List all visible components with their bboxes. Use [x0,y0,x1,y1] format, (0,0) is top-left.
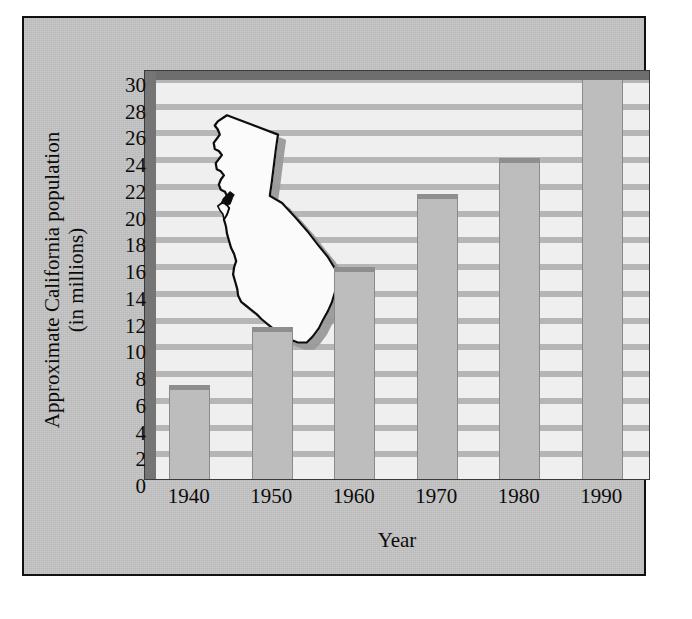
grid-band [156,425,649,431]
bar-1950 [252,327,293,479]
y-tick-label: 18 [125,235,146,256]
grid-band [156,451,649,457]
y-tick-label: 30 [125,75,146,96]
plot-bevel-top [145,71,649,80]
y-tick-label: 20 [125,208,146,229]
y-tick-label: 26 [125,128,146,149]
x-axis-tick-labels: 194019501960197019801990 [155,486,650,520]
y-tick-label: 16 [125,262,146,283]
bar-face [334,272,375,479]
chart-card: Approximate California population (in mi… [22,16,646,576]
y-tick-label: 2 [136,449,147,470]
grid-band [156,237,649,243]
y-axis-title-line2: (in millions) [65,132,89,428]
x-tick-label: 1940 [168,486,210,507]
plot-area [156,80,649,479]
y-axis-title-line1: Approximate California population [41,132,65,428]
x-tick-label: 1990 [580,486,622,507]
grid-band [156,264,649,270]
y-tick-label: 0 [136,476,147,497]
x-tick-label: 1970 [415,486,457,507]
x-tick-label: 1950 [250,486,292,507]
y-tick-label: 28 [125,101,146,122]
y-axis-title: Approximate California population (in mi… [34,60,96,500]
grid-band [156,157,649,163]
grid-band [156,104,649,110]
bar-1970 [417,194,458,479]
grid-band [156,211,649,217]
bar-face [499,163,540,479]
y-axis-tick-labels: 024681012141618202224262830 [106,76,146,476]
grid-band [156,80,649,83]
grid-band [156,318,649,324]
x-tick-label: 1980 [498,486,540,507]
bar-1980 [499,158,540,479]
y-tick-label: 12 [125,315,146,336]
bar-1940 [169,385,210,479]
y-tick-label: 4 [136,422,147,443]
y-tick-label: 6 [136,395,147,416]
grid-band [156,291,649,297]
y-tick-label: 22 [125,181,146,202]
grid-band [156,130,649,136]
y-tick-label: 14 [125,288,146,309]
y-tick-label: 10 [125,342,146,363]
bar-1990 [582,80,623,479]
bar-face [169,390,210,479]
grid-band [156,344,649,350]
plot-bevel-left [145,71,156,479]
bar-face [417,199,458,479]
y-tick-label: 24 [125,155,146,176]
x-tick-label: 1960 [333,486,375,507]
bar-face [252,332,293,479]
grid-band [156,184,649,190]
y-tick-label: 8 [136,369,147,390]
grid-band [156,398,649,404]
grid-band [156,371,649,377]
x-axis-title: Year [144,528,650,553]
chart-figure: Approximate California population (in mi… [0,0,692,619]
plot-frame [144,70,650,480]
bar-face [582,80,623,479]
bar-1960 [334,267,375,479]
